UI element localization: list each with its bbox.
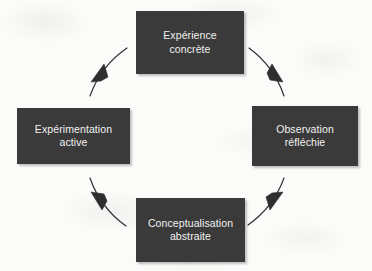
arrow-abstract-to-active [90,178,126,226]
diagram-canvas: Expérience concrète Observation réfléchi… [0,0,372,271]
arrow-active-to-concrete [90,48,127,96]
node-abstract-label: Conceptualisation abstraite [144,217,237,244]
node-observation-reflechie[interactable]: Observation réfléchie [252,106,358,166]
node-conceptualisation-abstraite[interactable]: Conceptualisation abstraite [136,198,245,262]
node-concrete-label: Expérience concrète [159,29,221,56]
node-experimentation-active[interactable]: Expérimentation active [17,108,130,164]
node-active-label: Expérimentation active [31,123,116,150]
node-reflective-label: Observation réfléchie [272,123,338,150]
arrow-concrete-to-reflective [249,48,284,96]
arrow-reflective-to-abstract [248,178,284,225]
node-experience-concrete[interactable]: Expérience concrète [136,11,244,74]
